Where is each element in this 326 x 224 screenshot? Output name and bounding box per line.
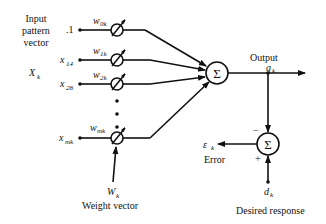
svg-text:Σ: Σ	[213, 66, 221, 81]
svg-text:Error: Error	[204, 154, 226, 165]
svg-text:k: k	[211, 144, 215, 152]
weight-adjuster-icon	[111, 49, 125, 66]
output: Output g k	[228, 52, 305, 75]
svg-text:Input: Input	[25, 13, 46, 24]
svg-text:k: k	[270, 191, 274, 199]
adaline-diagram: Input pattern vector X k .1 w 0k x 14 w …	[0, 0, 326, 224]
svg-text:w: w	[93, 69, 100, 80]
svg-text:Desired response: Desired response	[236, 205, 305, 216]
svg-text:0k: 0k	[100, 20, 108, 28]
input-row-0: .1 w 0k	[66, 15, 206, 66]
svg-text:.1: .1	[66, 24, 74, 35]
svg-text:x: x	[58, 132, 64, 143]
svg-text:k: k	[37, 73, 41, 81]
svg-text:mk: mk	[65, 138, 74, 146]
input-row-1: x 14 w 1k	[59, 45, 205, 70]
svg-text:Output: Output	[250, 52, 278, 63]
svg-text:−: −	[253, 125, 259, 136]
svg-text:k: k	[116, 192, 120, 200]
input-row-2: x 28 w 2k	[59, 69, 205, 92]
svg-text:28: 28	[66, 84, 74, 92]
error-output: ε k Error	[203, 139, 257, 165]
svg-text:w: w	[93, 45, 100, 56]
input-vector-symbol: X k	[28, 67, 41, 81]
svg-text:Weight vector: Weight vector	[82, 200, 139, 211]
weight-adjuster-icon	[111, 73, 125, 90]
svg-text:ε: ε	[203, 139, 207, 150]
weight-adjuster-icon	[111, 19, 125, 36]
input-pattern-label: Input pattern vector	[22, 13, 50, 48]
summation-node: Σ	[206, 62, 228, 84]
svg-text:Σ: Σ	[264, 137, 272, 152]
ellipsis-dots	[115, 99, 119, 129]
weight-adjuster-icon	[111, 127, 125, 144]
svg-text:vector: vector	[24, 37, 50, 48]
svg-text:w: w	[93, 15, 100, 26]
svg-text:14: 14	[66, 60, 74, 68]
svg-text:pattern: pattern	[22, 25, 50, 36]
svg-text:x: x	[59, 54, 65, 65]
svg-text:x: x	[59, 78, 65, 89]
desired-response: d k Desired response	[236, 156, 305, 216]
svg-text:X: X	[28, 67, 36, 78]
input-row-m: x mk w mk	[58, 82, 209, 146]
svg-text:2k: 2k	[100, 74, 108, 82]
svg-text:1k: 1k	[100, 50, 108, 58]
weight-vector: W k Weight vector	[82, 147, 139, 211]
svg-text:w: w	[90, 122, 97, 133]
svg-text:+: +	[255, 153, 261, 164]
svg-text:mk: mk	[97, 127, 106, 135]
